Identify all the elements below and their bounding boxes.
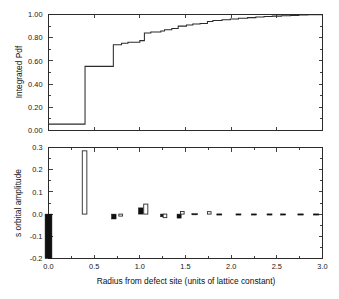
y-tick-label: 0.40 [28, 80, 42, 89]
bottom-panel-y-axis-label: s orbital amplitude [13, 169, 23, 237]
bar-open [180, 211, 184, 214]
bar-filled [45, 214, 52, 258]
y-tick-label: 0.1 [32, 188, 42, 197]
bar-filled [251, 214, 256, 215]
bottom-panel-frame [49, 148, 323, 259]
bar-filled [217, 214, 222, 215]
y-tick-label: 0.0 [32, 210, 42, 219]
bar-open [82, 151, 87, 214]
bar-filled [236, 214, 241, 215]
x-tick-label: 1.5 [180, 262, 190, 271]
x-tick-label: 0.5 [89, 262, 99, 271]
figure-container: 0.000.200.400.600.801.00 Integrated Pdf … [0, 0, 339, 299]
bottom-panel-x-tick-labels: 0.00.51.01.52.02.53.0 [43, 262, 327, 271]
y-tick-label: 0.00 [28, 126, 42, 135]
bar-filled [313, 214, 318, 215]
x-tick-label: 0.0 [43, 262, 53, 271]
bottom-panel: 0.30.20.10.0-0.1-0.2 0.00.51.01.52.02.53… [13, 143, 328, 286]
y-tick-label: 1.00 [28, 10, 42, 19]
top-panel-y-ticks [49, 15, 323, 131]
bar-open [144, 204, 148, 214]
top-panel-x-ticks [49, 15, 323, 131]
y-tick-label: 0.80 [28, 33, 42, 42]
bar-filled [298, 214, 303, 215]
x-tick-label: 1.0 [135, 262, 145, 271]
y-tick-label: 0.2 [32, 165, 42, 174]
bar-filled [267, 214, 272, 215]
y-tick-label: -0.2 [30, 254, 43, 263]
bottom-panel-y-ticks [49, 148, 323, 259]
bottom-panel-x-ticks [49, 148, 323, 259]
s-orbital-bars [45, 151, 319, 259]
bar-filled [177, 214, 181, 218]
bar-open [207, 212, 211, 214]
top-panel: 0.000.200.400.600.801.00 Integrated Pdf [14, 10, 323, 135]
y-tick-label: 0.20 [28, 103, 42, 112]
top-panel-y-axis-label: Integrated Pdf [14, 45, 24, 98]
x-tick-label: 3.0 [317, 262, 327, 271]
top-panel-frame [49, 15, 323, 131]
integrated-pdf-step-curve [49, 15, 323, 125]
bar-filled [138, 208, 143, 214]
bar-filled [192, 214, 197, 215]
bar-filled [112, 214, 117, 219]
y-tick-label: 0.60 [28, 57, 42, 66]
bar-filled [281, 214, 286, 215]
y-tick-label: 0.3 [32, 143, 42, 152]
y-tick-label: -0.1 [30, 232, 43, 241]
scientific-figure: 0.000.200.400.600.801.00 Integrated Pdf … [0, 0, 339, 299]
x-tick-label: 2.5 [272, 262, 282, 271]
bottom-panel-x-axis-label: Radius from defect site (units of lattic… [97, 276, 276, 286]
top-panel-y-tick-labels: 0.000.200.400.600.801.00 [28, 10, 42, 135]
bar-open [119, 214, 123, 216]
bottom-panel-y-tick-labels: 0.30.20.10.0-0.1-0.2 [30, 143, 43, 263]
bar-open [163, 214, 167, 218]
x-tick-label: 2.0 [226, 262, 236, 271]
